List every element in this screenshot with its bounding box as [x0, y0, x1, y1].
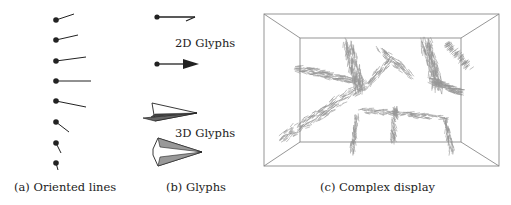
glyph-2d-arrow [154, 59, 199, 69]
caption-complex-display: (c) Complex display [320, 180, 435, 194]
oriented-line-glyph [53, 57, 86, 64]
oriented-line-glyph [53, 35, 78, 43]
oriented-lines-panel [53, 14, 91, 170]
oriented-line-glyph [53, 98, 86, 107]
oriented-line-glyph [53, 160, 59, 170]
oriented-line-glyph [53, 140, 61, 153]
oriented-line-glyph [53, 78, 91, 84]
caption-oriented-lines: (a) Oriented lines [14, 180, 116, 194]
glyph-3d-plane [143, 103, 197, 121]
caption-glyphs: (b) Glyphs [166, 180, 226, 194]
label-2d-glyphs: 2D Glyphs [175, 36, 235, 50]
oriented-line-glyph [53, 14, 74, 23]
glyph-3d-cone [153, 138, 202, 166]
glyph-2d-half-arrow [154, 14, 195, 21]
complex-display-panel [264, 14, 499, 166]
figure-canvas [0, 0, 511, 205]
oriented-line-glyph [53, 119, 69, 132]
flow-glyph-field [279, 37, 474, 156]
label-3d-glyphs: 3D Glyphs [175, 126, 235, 140]
